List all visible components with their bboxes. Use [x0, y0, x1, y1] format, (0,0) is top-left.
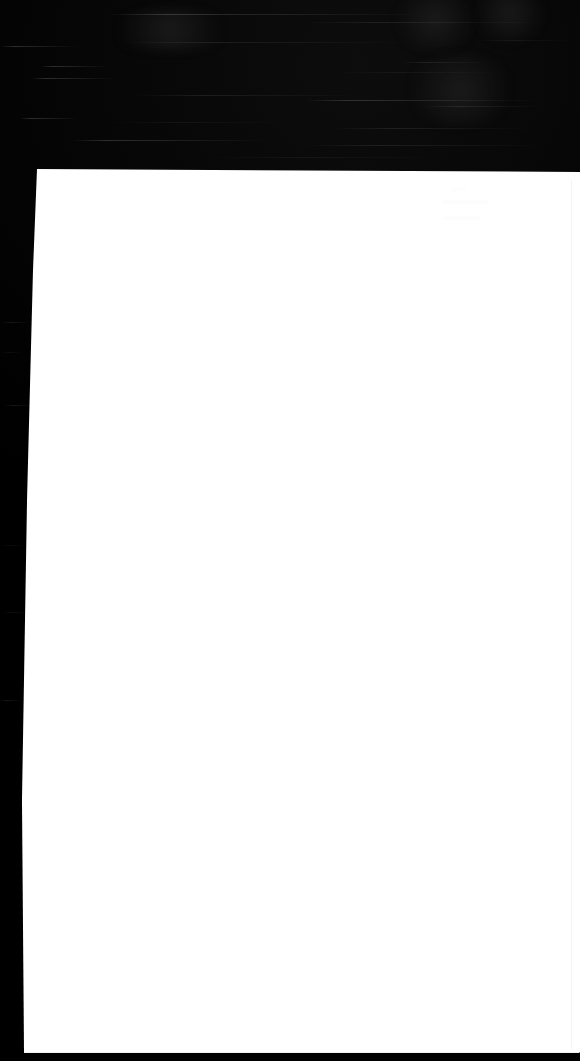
photograph-frame: Near-black photographic frame with a lar…	[0, 0, 580, 1061]
ghost-mark	[443, 216, 481, 220]
ghost-mark	[452, 188, 466, 191]
shadow-blob	[400, 55, 520, 125]
page-right-edge	[571, 180, 572, 1050]
ghost-mark	[442, 200, 488, 204]
shadow-blob	[100, 10, 240, 50]
page-bottom-edge	[23, 1052, 580, 1053]
